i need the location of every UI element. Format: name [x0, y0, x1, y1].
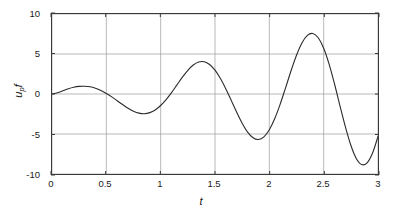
y-axis-label-suffix: f	[12, 84, 24, 87]
x-tick-label: 0	[36, 179, 66, 189]
x-tick-label: 1	[145, 179, 175, 189]
x-tick-label: 2	[254, 179, 284, 189]
x-tick-label: 2.5	[308, 179, 338, 189]
figure-container: 10 5 0 -5 -10 0 0.5 1 1.5 2 2.5 3 upf t	[0, 0, 394, 217]
y-tick-label: 10	[8, 9, 40, 19]
y-tick-label: -5	[8, 130, 40, 140]
y-axis-label-subscript: p	[17, 87, 26, 91]
y-axis-label: upf	[12, 74, 26, 108]
data-curve	[52, 14, 378, 174]
x-axis-label: t	[0, 195, 394, 207]
x-tick-label: 1.5	[199, 179, 229, 189]
x-tick-label: 3	[363, 179, 393, 189]
y-tick-label: 5	[8, 49, 40, 59]
x-tick-label: 0.5	[90, 179, 120, 189]
plot-area	[51, 13, 379, 175]
y-axis-label-base: u	[12, 92, 24, 98]
